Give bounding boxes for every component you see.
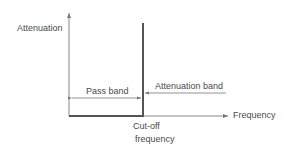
x-axis-label: Frequency: [233, 110, 276, 120]
cutoff-label-line1: Cut-off: [133, 121, 160, 131]
lowpass-filter-diagram: Attenuation Frequency Pass band Attenuat…: [0, 0, 291, 147]
pass-band-label: Pass band: [86, 86, 129, 96]
attenuation-band-label: Attenuation band: [155, 81, 223, 91]
cutoff-label-line2: frequency: [135, 134, 175, 144]
y-axis-label: Attenuation: [17, 23, 63, 33]
filter-response-line: [69, 23, 143, 116]
